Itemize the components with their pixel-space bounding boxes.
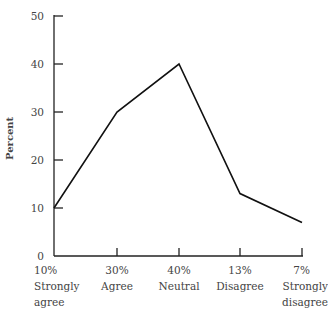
category-percent: 10% (34, 262, 94, 278)
y-tick-label: 0 (37, 250, 44, 262)
y-tick-label: 40 (31, 58, 44, 70)
category-strongly-agree: 10% Strongly agree (34, 262, 94, 310)
category-percent: 13% (210, 262, 270, 278)
y-ticks (54, 16, 63, 208)
category-label: Strongly (268, 278, 328, 294)
y-axis-label: Percent (4, 117, 15, 160)
y-tick-label: 30 (31, 106, 44, 118)
y-tick-label: 10 (31, 202, 44, 214)
category-strongly-disagree: 7% Strongly disagree (268, 262, 328, 310)
category-neutral: 40% Neutral (149, 262, 209, 294)
category-label: disagree (268, 294, 328, 310)
x-ticks (117, 248, 302, 256)
category-percent: 40% (149, 262, 209, 278)
category-percent: 30% (87, 262, 147, 278)
y-tick-label: 20 (31, 154, 44, 166)
category-label: agree (34, 294, 94, 310)
category-agree: 30% Agree (87, 262, 147, 294)
data-line (54, 64, 302, 222)
category-label: Strongly (34, 278, 94, 294)
y-tick-label: 50 (31, 10, 44, 22)
category-label: Agree (87, 278, 147, 294)
y-tick-labels: 50 40 30 20 10 0 (31, 10, 44, 262)
category-label: Neutral (149, 278, 209, 294)
category-disagree: 13% Disagree (210, 262, 270, 294)
category-percent: 7% (268, 262, 328, 278)
category-label: Disagree (210, 278, 270, 294)
